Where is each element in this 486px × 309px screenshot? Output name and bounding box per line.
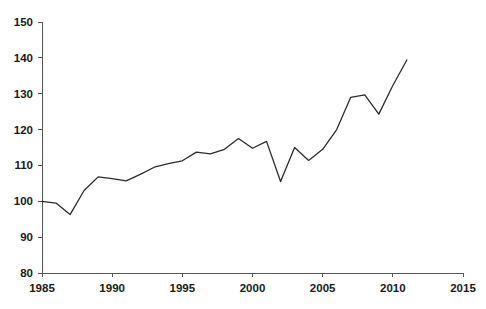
x-tick-label: 2000	[240, 282, 266, 294]
x-tick-label: 1990	[99, 282, 125, 294]
y-tick-label: 120	[14, 124, 33, 136]
data-series-line	[42, 60, 407, 215]
y-tick-label: 80	[20, 267, 33, 279]
y-tick-label: 90	[20, 231, 33, 243]
x-tick-label: 2005	[310, 282, 336, 294]
y-tick-label: 140	[14, 52, 33, 64]
x-axis-tick-marks	[42, 273, 463, 277]
x-tick-label: 1985	[29, 282, 55, 294]
x-tick-label: 2015	[450, 282, 476, 294]
y-tick-label: 100	[14, 195, 33, 207]
y-axis-tick-labels: 8090100110120130140150	[14, 16, 33, 279]
x-tick-label: 2010	[380, 282, 406, 294]
line-chart: 8090100110120130140150 19851990199520002…	[0, 0, 486, 309]
y-tick-label: 130	[14, 88, 33, 100]
y-tick-label: 150	[14, 16, 33, 28]
x-axis-tick-labels: 1985199019952000200520102015	[29, 282, 476, 294]
chart-container: 8090100110120130140150 19851990199520002…	[0, 0, 486, 309]
y-axis-tick-marks	[38, 22, 42, 273]
y-tick-label: 110	[14, 159, 33, 171]
x-tick-label: 1995	[170, 282, 196, 294]
